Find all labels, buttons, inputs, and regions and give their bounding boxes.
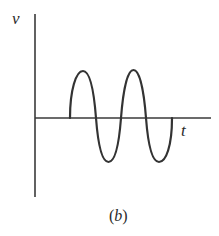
x-axis-label: t	[181, 122, 186, 139]
y-axis-label: v	[12, 10, 20, 27]
figure-caption: (b)	[109, 208, 128, 224]
sine-wave-curve	[70, 70, 172, 162]
caption-close-paren: )	[122, 207, 127, 224]
waveform-figure: v t (b)	[0, 0, 219, 236]
waveform-plot	[0, 0, 219, 236]
